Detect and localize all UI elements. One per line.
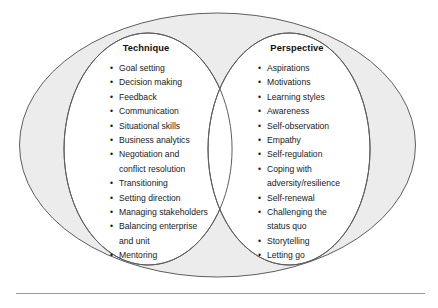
list-item: Transitioning xyxy=(110,176,220,190)
list-item: Mentoring xyxy=(110,248,220,262)
list-item: Negotiation and conflict resolution xyxy=(110,147,220,176)
list-item: Setting direction xyxy=(110,191,220,205)
list-item: Situational skills xyxy=(110,119,220,133)
perspective-list: Aspirations Motivations Learning styles … xyxy=(258,61,374,263)
perspective-column: Perspective Aspirations Motivations Lear… xyxy=(238,43,374,263)
list-item: Balancing enterprise and unit xyxy=(110,219,220,248)
list-item: Business analytics xyxy=(110,133,220,147)
list-item: Goal setting xyxy=(110,61,220,75)
list-item: Self-renewal xyxy=(258,191,374,205)
list-item: Awareness xyxy=(258,104,374,118)
list-item: Learning styles xyxy=(258,90,374,104)
technique-list: Goal setting Decision making Feedback Co… xyxy=(110,61,220,263)
technique-heading: Technique xyxy=(80,43,220,53)
list-item: Aspirations xyxy=(258,61,374,75)
venn-diagram-figure: Technique Goal setting Decision making F… xyxy=(0,0,438,308)
list-item: Managing stakeholders xyxy=(110,205,220,219)
bottom-divider-rule xyxy=(16,293,425,294)
list-item: Feedback xyxy=(110,90,220,104)
perspective-heading: Perspective xyxy=(238,43,374,53)
list-item: Letting go xyxy=(258,248,374,262)
technique-column: Technique Goal setting Decision making F… xyxy=(80,43,220,263)
list-item: Empathy xyxy=(258,133,374,147)
list-item: Communication xyxy=(110,104,220,118)
list-item: Coping with adversity/resilience xyxy=(258,162,374,191)
list-item: Self-observation xyxy=(258,119,374,133)
list-item: Storytelling xyxy=(258,234,374,248)
list-item: Motivations xyxy=(258,75,374,89)
list-item: Self-regulation xyxy=(258,147,374,161)
list-item: Decision making xyxy=(110,75,220,89)
list-item: Challenging the status quo xyxy=(258,205,374,234)
